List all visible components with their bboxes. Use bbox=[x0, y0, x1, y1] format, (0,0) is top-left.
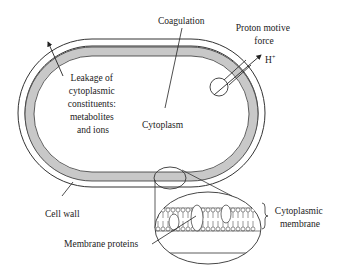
membrane-protein bbox=[221, 205, 231, 223]
cell-wall-inner bbox=[25, 46, 258, 180]
membrane-proteins-label: Membrane proteins bbox=[64, 239, 138, 249]
membrane-inner-edge bbox=[34, 56, 249, 172]
coagulation-leader bbox=[165, 28, 182, 108]
coagulation-label: Coagulation bbox=[158, 16, 205, 26]
proton-pore-circle bbox=[210, 78, 228, 96]
cytoplasmic-membrane-band bbox=[30, 52, 254, 177]
cytoplasmic-membrane-brace bbox=[262, 203, 268, 229]
bacterial-cell-diagram: Coagulation Proton motive force H+ Leaka… bbox=[0, 0, 337, 277]
cytoplasmic-membrane-label: Cytoplasmic membrane bbox=[275, 206, 325, 229]
cell-wall-label: Cell wall bbox=[45, 209, 80, 219]
leakage-label: Leakage of cytoplasmic constituents: met… bbox=[68, 73, 118, 135]
membrane-zoom-view bbox=[150, 192, 261, 264]
cytoplasm-label: Cytoplasm bbox=[142, 120, 184, 130]
cell-wall-leader bbox=[62, 182, 73, 196]
membrane-outer-edge bbox=[25, 47, 258, 181]
proton-motive-force-label: Proton motive force bbox=[236, 23, 292, 46]
h-plus-label: H+ bbox=[265, 54, 276, 65]
